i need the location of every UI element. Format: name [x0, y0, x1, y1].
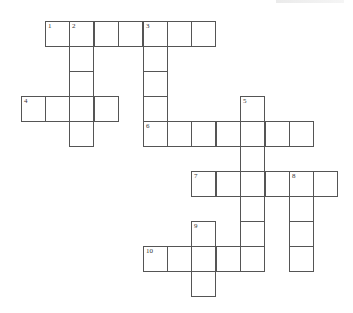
crossword-cell[interactable] — [143, 46, 168, 72]
clue-number: 7 — [194, 172, 198, 180]
clue-number: 4 — [24, 97, 28, 105]
clue-number: 8 — [292, 172, 296, 180]
crossword-cell[interactable] — [191, 271, 216, 297]
crossword-cell[interactable] — [216, 171, 241, 197]
crossword-cell[interactable] — [69, 46, 94, 72]
crossword-cell[interactable]: 8 — [289, 171, 314, 197]
crossword-cell[interactable]: 6 — [143, 121, 168, 147]
crossword-cell[interactable] — [240, 146, 265, 172]
crossword-cell[interactable] — [69, 121, 94, 147]
crossword-cell[interactable]: 10 — [143, 246, 168, 272]
clue-number: 3 — [146, 22, 150, 30]
crossword-cell[interactable] — [240, 246, 265, 272]
crossword-cell[interactable] — [240, 171, 265, 197]
crossword-cell[interactable] — [216, 121, 241, 147]
crossword-cell[interactable] — [240, 196, 265, 222]
crossword-grid: 12364578910 — [0, 0, 353, 313]
crossword-cell[interactable] — [118, 21, 143, 47]
crossword-cell[interactable] — [289, 221, 314, 247]
crossword-cell[interactable] — [289, 196, 314, 222]
clue-number: 2 — [72, 22, 76, 30]
clue-number: 5 — [243, 97, 247, 105]
crossword-cell[interactable] — [313, 171, 338, 197]
crossword-cell[interactable]: 3 — [143, 21, 168, 47]
crossword-cell[interactable] — [69, 71, 94, 97]
clue-number: 9 — [194, 222, 198, 230]
crossword-cell[interactable] — [143, 96, 168, 122]
crossword-cell[interactable] — [167, 121, 192, 147]
crossword-cell[interactable] — [191, 121, 216, 147]
crossword-cell[interactable] — [289, 246, 314, 272]
crossword-cell[interactable] — [240, 221, 265, 247]
crossword-cell[interactable]: 5 — [240, 96, 265, 122]
clue-number: 1 — [48, 22, 52, 30]
crossword-cell[interactable]: 7 — [191, 171, 216, 197]
crossword-cell[interactable] — [191, 246, 216, 272]
crossword-cell[interactable] — [143, 71, 168, 97]
crossword-cell[interactable] — [240, 121, 265, 147]
crossword-cell[interactable]: 4 — [21, 96, 46, 122]
clue-number: 10 — [146, 247, 153, 255]
crossword-cell[interactable] — [289, 121, 314, 147]
crossword-cell[interactable] — [167, 21, 192, 47]
crossword-cell[interactable]: 1 — [45, 21, 70, 47]
crossword-cell[interactable] — [265, 171, 290, 197]
clipped-header-text — [276, 0, 344, 3]
crossword-cell[interactable] — [94, 21, 119, 47]
crossword-cell[interactable]: 2 — [69, 21, 94, 47]
crossword-cell[interactable] — [265, 121, 290, 147]
crossword-cell[interactable] — [167, 246, 192, 272]
crossword-cell[interactable] — [69, 96, 94, 122]
crossword-cell[interactable]: 9 — [191, 221, 216, 247]
crossword-cell[interactable] — [94, 96, 119, 122]
clue-number: 6 — [146, 122, 150, 130]
crossword-cell[interactable] — [216, 246, 241, 272]
crossword-cell[interactable] — [191, 21, 216, 47]
crossword-cell[interactable] — [45, 96, 70, 122]
